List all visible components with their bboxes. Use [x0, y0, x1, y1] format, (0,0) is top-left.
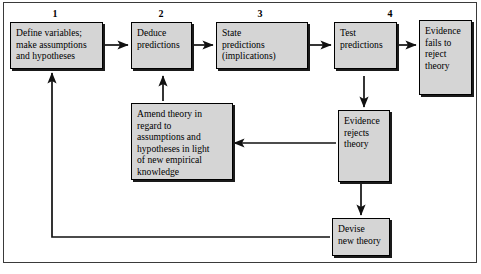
step-number-1: 1 [45, 8, 65, 19]
node-amend-theory[interactable]: Amend theory in regard to assumptions an… [131, 103, 233, 180]
node-state-predictions[interactable]: State predictions (implications) [216, 22, 308, 69]
node-define-variables[interactable]: Define variables; make assumptions and h… [10, 22, 103, 69]
step-number-4: 4 [380, 8, 400, 19]
flowchart-canvas: 1 2 3 4 Define variables; make assumptio… [0, 0, 481, 274]
step-number-3: 3 [250, 8, 270, 19]
node-devise-new-theory[interactable]: Devise new theory [332, 218, 390, 256]
node-evidence-fails-to-reject-theory[interactable]: Evidence fails to reject theory [419, 20, 472, 95]
node-test-predictions[interactable]: Test predictions [334, 22, 397, 69]
node-deduce-predictions[interactable]: Deduce predictions [131, 22, 192, 69]
node-evidence-rejects-theory[interactable]: Evidence rejects theory [338, 110, 390, 182]
step-number-2: 2 [151, 8, 171, 19]
